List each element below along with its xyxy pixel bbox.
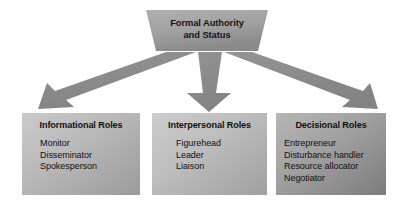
- list-item: Figurehead: [176, 138, 267, 150]
- formal-authority-label-line2: and Status: [183, 30, 230, 42]
- list-item: Monitor: [40, 138, 140, 150]
- interpersonal-roles-title: Interpersonal Roles: [152, 120, 267, 131]
- list-item: Disseminator: [40, 150, 140, 162]
- interpersonal-roles-list: Figurehead Leader Liaison: [152, 138, 267, 173]
- decisional-roles-title: Decisional Roles: [276, 120, 386, 131]
- list-item: Entrepreneur: [284, 138, 386, 150]
- list-item: Liaison: [176, 161, 267, 173]
- decisional-roles-box: Decisional Roles Entrepreneur Disturbanc…: [276, 113, 386, 195]
- informational-roles-title: Informational Roles: [22, 120, 140, 131]
- interpersonal-roles-box: Interpersonal Roles Figurehead Leader Li…: [152, 113, 267, 195]
- formal-authority-node: Formal Authority and Status: [146, 13, 268, 47]
- decisional-roles-list: Entrepreneur Disturbance handler Resourc…: [276, 138, 386, 184]
- diagram-canvas: Formal Authority and Status Informationa…: [0, 0, 411, 212]
- informational-roles-list: Monitor Disseminator Spokesperson: [22, 138, 140, 173]
- list-item: Negotiator: [284, 173, 386, 185]
- arrow-to-interpersonal-shape: [187, 52, 231, 112]
- formal-authority-label-line1: Formal Authority: [170, 18, 244, 30]
- arrow-to-informational-shape: [38, 52, 196, 109]
- list-item: Leader: [176, 150, 267, 162]
- list-item: Disturbance handler: [284, 150, 386, 162]
- list-item: Resource allocator: [284, 161, 386, 173]
- informational-roles-box: Informational Roles Monitor Disseminator…: [22, 113, 140, 195]
- arrow-to-decisional-shape: [224, 52, 378, 109]
- list-item: Spokesperson: [40, 161, 140, 173]
